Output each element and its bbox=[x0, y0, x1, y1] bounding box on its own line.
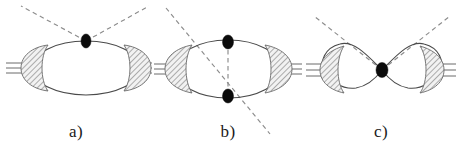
panel-label-c: c) bbox=[304, 123, 458, 140]
figure-root: a) bbox=[0, 0, 458, 146]
diagram-panel-b: b) bbox=[152, 0, 304, 146]
vertex-dot-bottom-b bbox=[223, 89, 234, 103]
hatched-blob-right-b bbox=[265, 45, 292, 93]
dashed-line-right-a bbox=[86, 6, 149, 41]
panel-label-a: a) bbox=[0, 123, 152, 140]
vertex-dot-center-c bbox=[376, 63, 388, 78]
hatched-blob-left-b bbox=[165, 45, 192, 93]
vertex-dot-top-b bbox=[223, 35, 234, 49]
diagram-panel-c: c) bbox=[304, 0, 458, 146]
hatched-blob-left-c bbox=[320, 46, 344, 93]
hatched-blob-right-a bbox=[124, 45, 151, 91]
hatched-blob-right-c bbox=[420, 46, 444, 93]
diagram-panel-a: a) bbox=[0, 0, 152, 146]
vertex-dot-a bbox=[81, 34, 91, 48]
hatched-blob-left-a bbox=[21, 45, 48, 91]
dashed-line-left-a bbox=[21, 6, 86, 41]
loop-ellipse-a bbox=[32, 41, 140, 95]
panel-label-b: b) bbox=[152, 123, 304, 140]
